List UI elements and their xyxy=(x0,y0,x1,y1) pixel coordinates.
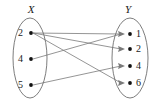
node-label-y-4: 4 xyxy=(136,60,141,71)
node-label-x-4: 4 xyxy=(18,53,23,64)
node-label-x-2: 2 xyxy=(18,27,23,38)
node-label-y-6: 6 xyxy=(136,77,141,88)
arrowhead-to-2 xyxy=(118,46,125,52)
node-dot-y-2 xyxy=(128,47,132,51)
set-y-ellipse xyxy=(112,18,148,98)
node-dot-x-4 xyxy=(29,57,33,61)
edge-2-to-1 xyxy=(33,33,121,34)
arrowheads-group xyxy=(118,31,125,86)
node-label-y-2: 2 xyxy=(136,43,141,54)
node-label-y-1: 1 xyxy=(136,28,141,39)
node-dot-x-5 xyxy=(29,83,33,87)
set-y-label: Y xyxy=(125,3,133,15)
node-dot-x-2 xyxy=(29,31,33,35)
arrowhead-to-6 xyxy=(118,80,125,86)
node-dot-y-1 xyxy=(128,32,132,36)
set-x-label: X xyxy=(27,3,36,15)
edges-group xyxy=(33,33,121,85)
arrowhead-to-4 xyxy=(118,63,125,69)
node-label-x-5: 5 xyxy=(18,79,23,90)
arrowhead-to-1 xyxy=(118,31,125,37)
set-y-elements: 1 2 4 6 xyxy=(128,28,141,88)
set-x-elements: 2 4 5 xyxy=(18,27,33,90)
node-dot-y-4 xyxy=(128,64,132,68)
mapping-diagram-figure: X Y 2 4 5 1 2 4 6 xyxy=(0,0,158,103)
node-dot-y-6 xyxy=(128,81,132,85)
diagram-canvas: X Y 2 4 5 1 2 4 6 xyxy=(0,0,158,103)
